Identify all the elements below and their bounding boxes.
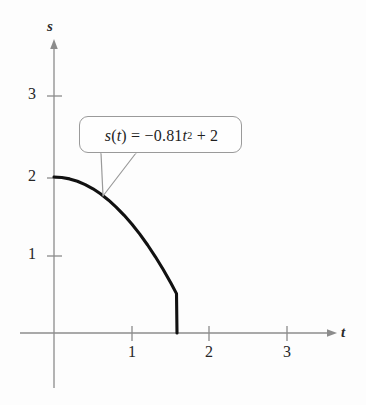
equation-callout-box: s(t) = −0.81t2 + 2: [79, 116, 242, 153]
parabola-curve: [54, 177, 177, 333]
equation-callout-text: s(t) = −0.81t2 + 2: [80, 117, 243, 154]
y-axis-label: s: [47, 18, 53, 35]
plus-sign: +: [197, 127, 206, 145]
plot-area: [0, 0, 366, 405]
paren-close: ): [121, 127, 127, 145]
y-tick-label-3: 3: [22, 85, 42, 103]
graph-figure: s t 3 2 1 1 2 3 s(t) = −0.81t2 + 2: [0, 0, 366, 405]
callout-pointer: [101, 153, 136, 196]
constant-term: 2: [210, 127, 218, 145]
y-tick-label-2: 2: [22, 167, 42, 185]
y-tick-label-1: 1: [22, 245, 42, 263]
x-axis-label: t: [341, 324, 345, 341]
equals-sign: =: [131, 127, 140, 145]
x-tick-label-3: 3: [277, 343, 297, 361]
x-tick-label-2: 2: [199, 343, 219, 361]
x-tick-label-1: 1: [122, 343, 142, 361]
coefficient: −0.81: [145, 127, 183, 145]
